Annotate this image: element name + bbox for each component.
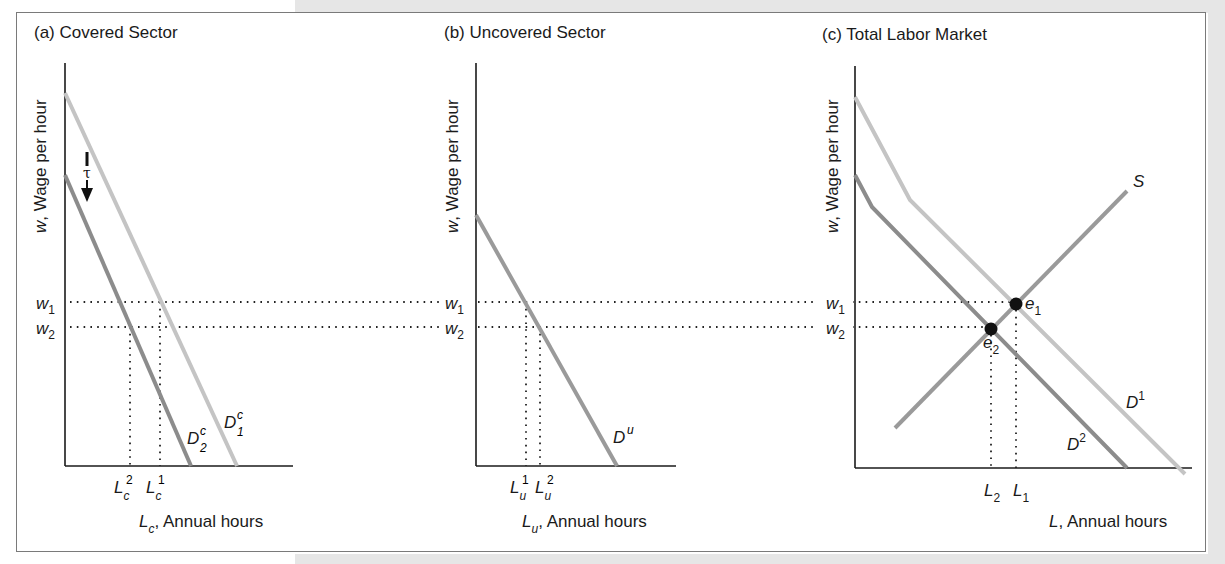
panel-uncovered-sector: (b) Uncovered Sector w, Wage per hour w1…: [440, 23, 676, 536]
panel-c-s-label: S: [1133, 172, 1145, 191]
panel-a-d2c-sub: 2: [199, 441, 207, 455]
panel-a-x-axis-label: Lc, Annual hours: [139, 512, 263, 536]
panel-a-lc2-sup: 2: [126, 473, 133, 487]
panel-c-y-axis-label: w, Wage per hour: [823, 99, 842, 233]
panel-a-d2c-sup: c: [200, 424, 206, 438]
panel-c-title: (c) Total Labor Market: [822, 25, 987, 44]
panel-c-l2-label: L2: [984, 481, 1000, 505]
panel-a-demand-d1c: [65, 93, 237, 466]
panel-total-labor-market: (c) Total Labor Market w, Wage per hour …: [818, 25, 1192, 531]
panel-b-lu1-sup: 1: [522, 473, 529, 487]
panel-b-demand-du: [476, 215, 617, 466]
panel-a-d1c-label: D: [224, 413, 236, 432]
panel-b-du-label: D: [613, 428, 625, 447]
panel-c-d2-label: D2: [1067, 431, 1086, 454]
panel-a-title: (a) Covered Sector: [34, 23, 178, 42]
panel-a-lc1-sup: 1: [158, 473, 165, 487]
equilibrium-e1-dot: [1010, 298, 1023, 311]
panel-c-x-axis-label: L, Annual hours: [1049, 512, 1167, 531]
panel-b-x-axis-label: Lu, Annual hours: [522, 512, 647, 536]
panel-a-w2-label: w2: [36, 319, 55, 342]
panel-a-d1c-sub: 1: [237, 425, 244, 439]
panel-covered-sector: (a) Covered Sector w, Wage per hour τ w1…: [31, 23, 1012, 536]
panel-a-d2c-label: D: [187, 429, 199, 448]
panel-b-y-axis-label: w, Wage per hour: [443, 99, 462, 233]
panel-a-y-axis-label: w, Wage per hour: [31, 99, 50, 233]
panel-c-supply-s: [895, 191, 1127, 428]
panel-c-d1-label: D1: [1126, 389, 1145, 412]
panel-c-l1-label: L1: [1013, 481, 1029, 505]
panel-b-title: (b) Uncovered Sector: [444, 23, 606, 42]
figure-canvas: (a) Covered Sector w, Wage per hour τ w1…: [0, 0, 1225, 564]
panel-b-lu2-sup: 2: [547, 473, 554, 487]
panel-b-du-sup: u: [627, 423, 634, 437]
panel-a-d1c-sup: c: [237, 408, 243, 422]
tax-label: τ: [83, 165, 91, 181]
panel-a-w1-label: w1: [36, 294, 55, 317]
